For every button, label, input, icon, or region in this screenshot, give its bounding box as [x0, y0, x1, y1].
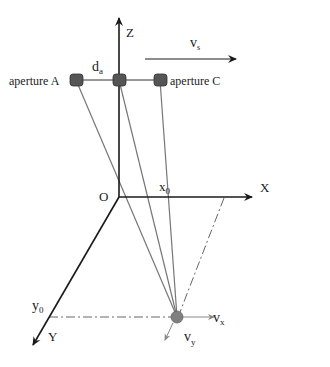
- x-axis-label: X: [260, 180, 270, 195]
- x0-label-text: x0: [159, 179, 171, 196]
- ray-a: [76, 80, 177, 317]
- x0-projection-line: [180, 198, 224, 312]
- aperture-a-label: aperture A: [9, 74, 60, 88]
- vs-label: vs: [190, 35, 200, 52]
- vy-label: vy: [184, 329, 196, 347]
- aperture-c-icon: [154, 74, 167, 86]
- aperture-c-label: aperture C: [170, 74, 220, 88]
- aperture-b-icon: [113, 74, 126, 86]
- diagram-canvas: Z X Y O aperture A aperture C da vs x0 y…: [0, 0, 330, 367]
- y0-label: y0: [32, 298, 44, 315]
- origin-label: O: [99, 189, 108, 204]
- spacing-label: da: [92, 59, 103, 76]
- rays: [76, 80, 177, 317]
- y-axis: [33, 197, 119, 345]
- vy-arrow: [165, 323, 173, 340]
- y-axis-label: Y: [48, 329, 58, 344]
- aperture-a-icon: [70, 74, 83, 86]
- vx-label: vx: [213, 310, 225, 327]
- target-point-icon: [171, 311, 183, 323]
- z-axis-label: Z: [126, 25, 134, 40]
